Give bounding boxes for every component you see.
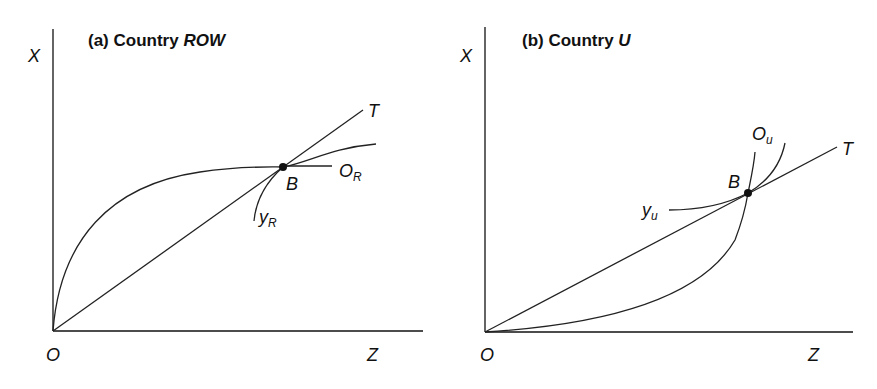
panel-b-x-axis-label: Z	[807, 345, 820, 365]
panel-a-point-label: B	[286, 174, 298, 194]
panel-b-offer-curve	[485, 152, 755, 332]
panel-a-equilibrium-point	[279, 163, 287, 171]
panel-a-origin-label: O	[46, 345, 60, 365]
panel-a-title: (a) Country ROW	[88, 31, 227, 50]
panel-b-offer-curve-label: Ou	[752, 124, 773, 147]
panel-b-ray-label: T	[842, 139, 855, 159]
panel-b-equilibrium-point	[744, 189, 752, 197]
panel-b: (b) Country U X Z O T Ou yu B	[459, 27, 855, 365]
panel-a-trade-ray	[53, 110, 363, 331]
panel-a-offer-curve-label: OR	[339, 161, 362, 184]
panel-b-offer-curve-branch	[748, 143, 785, 193]
panel-b-indifference-label: yu	[640, 200, 658, 223]
panel-b-origin-label: O	[480, 345, 494, 365]
diagram-canvas: (a) Country ROW X Z O T OR yR B (b) Coun…	[0, 0, 877, 389]
panel-b-trade-ray	[485, 147, 837, 332]
panel-b-title: (b) Country U	[522, 31, 631, 50]
panel-b-y-axis-label: X	[459, 46, 473, 66]
panel-a-x-axis-label: Z	[366, 345, 379, 365]
panel-a: (a) Country ROW X Z O T OR yR B	[27, 29, 423, 365]
panel-b-indifference-curve	[669, 193, 748, 210]
panel-a-ray-label: T	[368, 101, 381, 121]
panel-a-offer-curve	[53, 144, 376, 331]
panel-a-y-axis-label: X	[27, 46, 41, 66]
panel-a-indifference-label: yR	[257, 207, 277, 230]
panel-b-point-label: B	[728, 172, 740, 192]
